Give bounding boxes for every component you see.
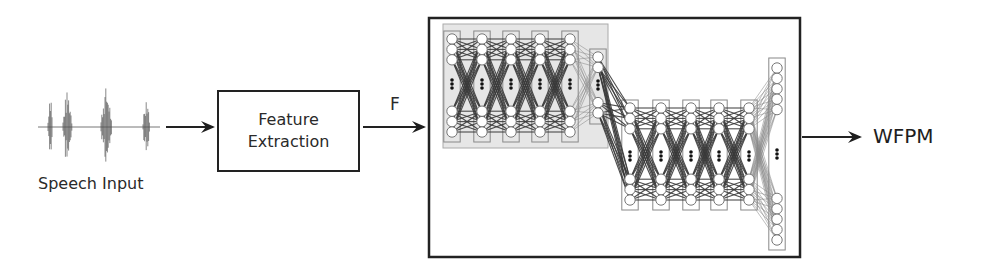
speech-waveform-icon [38, 88, 160, 161]
features-f-label: F [390, 94, 400, 114]
feature-extraction-box: Feature Extraction [217, 90, 360, 172]
feature-extraction-label-line1: Feature [258, 109, 318, 131]
wfpm-output-label: WFPM [873, 124, 934, 148]
speech-input-label: Speech Input [38, 174, 143, 193]
diagram-canvas [0, 0, 981, 278]
feature-extraction-label-line2: Extraction [248, 131, 330, 153]
